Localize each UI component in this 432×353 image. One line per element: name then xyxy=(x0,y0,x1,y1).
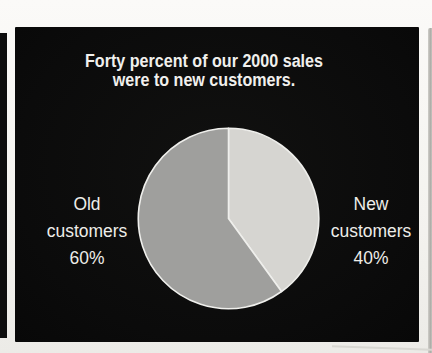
page-curl-line xyxy=(332,345,432,350)
adjacent-slide-edge xyxy=(0,33,7,338)
page-edge-right xyxy=(428,28,432,353)
chart-title: Forty percent of our 2000 sales were to … xyxy=(18,52,390,90)
pie-chart xyxy=(135,125,322,312)
label-old-line-1: Old xyxy=(29,191,145,218)
chart-title-line-2: were to new customers. xyxy=(18,71,390,90)
label-old-customers: Old customers 60% xyxy=(29,191,145,272)
label-new-line-3: 40% xyxy=(313,245,429,272)
label-new-line-2: customers xyxy=(313,218,429,245)
chart-title-line-1: Forty percent of our 2000 sales xyxy=(18,52,390,71)
label-new-customers: New customers 40% xyxy=(313,191,429,272)
label-old-line-3: 60% xyxy=(29,245,145,272)
slide: Forty percent of our 2000 sales were to … xyxy=(15,27,419,342)
label-new-line-1: New xyxy=(313,191,429,218)
pie-svg xyxy=(135,125,322,312)
page-background: Forty percent of our 2000 sales were to … xyxy=(0,0,432,353)
label-old-line-2: customers xyxy=(29,218,145,245)
